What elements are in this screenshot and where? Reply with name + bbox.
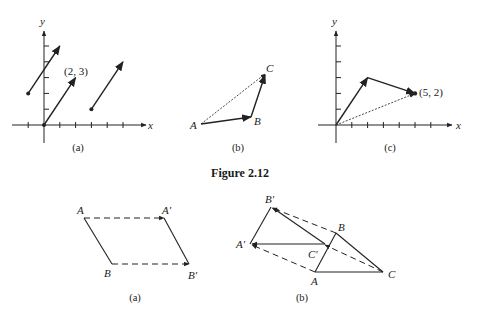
vector-bc: [251, 75, 265, 117]
panel-bottom-a: A A′ B B′ (a): [76, 204, 198, 304]
y-axis-label: y: [39, 15, 45, 27]
panel-caption: (a): [72, 142, 84, 154]
vector-1: [368, 78, 415, 94]
segment-bc: [336, 233, 383, 272]
correspondence-a-to-a-prime: [252, 245, 315, 272]
point-label-a: A: [76, 204, 84, 216]
axis-ticks: [28, 46, 123, 128]
panel-caption: (c): [384, 142, 396, 154]
panel-bottom-b: B′ A′ C′ B A C (b): [235, 193, 396, 304]
point-label-b-prime: B′: [188, 269, 198, 281]
vector-tail-point: [42, 123, 46, 127]
point-label: (5, 2): [419, 86, 443, 99]
point-label-b: B: [338, 221, 345, 233]
vector-2: [336, 93, 415, 125]
point-label-b: B: [104, 267, 111, 279]
x-axis-label: x: [147, 119, 153, 131]
point-label-a: A: [189, 119, 197, 131]
figure-caption: Figure 2.12: [211, 166, 269, 180]
vector-2: [91, 62, 123, 109]
endpoint-dot: [413, 91, 417, 95]
panel-top-c: x y (5, 2) (c): [318, 15, 461, 154]
point-label-a-prime: A′: [161, 204, 172, 216]
point-label-c: C: [266, 62, 274, 74]
vector-label: (2, 3): [64, 65, 88, 78]
vectors: [336, 78, 417, 125]
panel-caption: (a): [129, 292, 141, 304]
y-axis-label: y: [331, 15, 337, 27]
point-label-a-prime: A′: [235, 238, 246, 250]
figure-2-12: x y (2, 3) (a) A B C (b) x y (5, 2) (c) …: [0, 0, 478, 319]
vector-tail-point: [89, 107, 93, 111]
panel-caption: (b): [296, 292, 309, 304]
vector-ab: [201, 117, 251, 124]
segment-a-prime-b-prime: [164, 218, 189, 264]
segment-a-prime-b-prime: [250, 207, 271, 244]
point-label-b-prime: B′: [265, 193, 275, 205]
vector-0: [336, 78, 368, 125]
point-label-c-prime: C′: [308, 248, 318, 260]
vectors: [26, 46, 123, 127]
point-label-b: B: [254, 115, 261, 127]
x-axis-label: x: [455, 119, 461, 131]
point-label-a: A: [310, 275, 318, 287]
correspondence-c-to-c-prime: [325, 245, 383, 272]
vector-tail-point: [26, 91, 30, 95]
panel-top-b: A B C (b): [189, 62, 274, 154]
axis-ticks: [336, 46, 431, 128]
point-label-c: C: [388, 268, 396, 280]
panel-caption: (b): [232, 142, 245, 154]
vector-0: [44, 78, 76, 125]
panel-top-a: x y (2, 3) (a): [12, 15, 153, 154]
segment-ab: [84, 218, 112, 264]
